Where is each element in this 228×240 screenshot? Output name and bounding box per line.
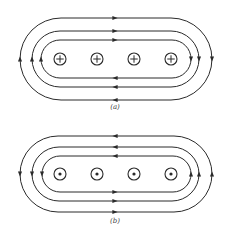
arrow-icon: [40, 171, 44, 176]
wire-out-of-page-icon: [54, 168, 66, 180]
arrow-icon: [189, 171, 193, 176]
arrow-icon: [112, 98, 117, 102]
wire-into-page-icon: [128, 53, 140, 65]
arrow-icon: [197, 171, 201, 176]
arrow-icon: [210, 56, 214, 61]
arrow-icon: [189, 56, 193, 61]
arrow-icon: [112, 210, 117, 214]
wire-out-of-page-icon: [128, 168, 140, 180]
arrow-icon: [197, 56, 201, 61]
wire-out-of-page-icon: [165, 168, 177, 180]
field-lines-diagram: [0, 0, 228, 240]
arrow-icon: [112, 145, 117, 149]
caption-b: (b): [100, 217, 130, 225]
arrow-icon: [18, 56, 22, 61]
wire-into-page-icon: [165, 53, 177, 65]
arrow-icon: [210, 171, 214, 176]
panel-a-into-page: [18, 16, 214, 102]
arrow-icon: [112, 154, 117, 158]
arrow-icon: [112, 76, 117, 80]
arrow-icon: [18, 171, 22, 176]
arrow-icon: [112, 16, 117, 20]
arrow-icon: [30, 171, 34, 176]
wire-out-of-page-icon: [91, 168, 103, 180]
wire-into-page-icon: [54, 53, 66, 65]
arrow-icon: [112, 29, 117, 33]
arrow-icon: [112, 38, 117, 42]
arrow-icon: [30, 56, 34, 61]
arrow-icon: [112, 190, 117, 194]
arrow-icon: [39, 56, 43, 61]
wire-into-page-icon: [91, 53, 103, 65]
arrow-icon: [112, 199, 117, 203]
panel-b-out-of-page: [18, 134, 214, 214]
arrow-icon: [112, 134, 117, 138]
arrow-icon: [112, 85, 117, 89]
caption-a: (a): [100, 103, 130, 111]
